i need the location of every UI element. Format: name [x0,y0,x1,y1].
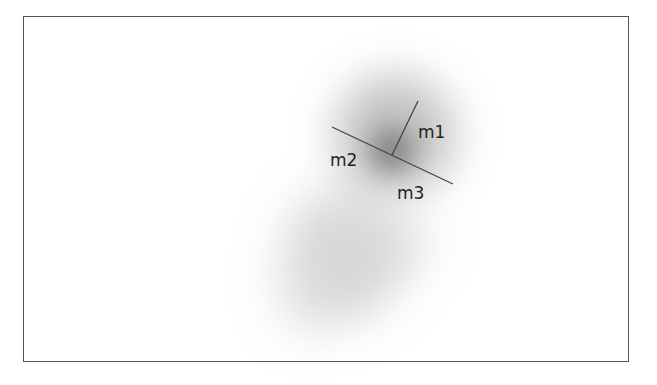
label-m3: m3 [397,183,424,203]
comet-diagram [0,0,657,385]
label-m2: m2 [330,150,357,170]
label-m1: m1 [418,122,445,142]
comet-tail [274,180,440,335]
